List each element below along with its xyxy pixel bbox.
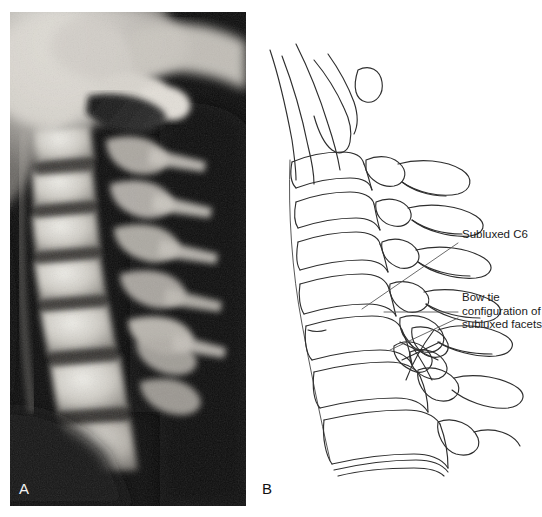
panel-label-b: B xyxy=(262,481,273,496)
annotation-subluxed-c6: Subluxed C6 xyxy=(462,228,528,242)
annotation-bow-tie-configuration: Bow tie configuration of subluxed facets xyxy=(462,291,542,332)
line-drawing-image xyxy=(262,12,532,506)
panel-label-a: A xyxy=(19,481,30,496)
panel-a-radiograph xyxy=(10,12,246,506)
panel-b-line-drawing xyxy=(262,12,532,506)
radiograph-image xyxy=(10,12,246,506)
